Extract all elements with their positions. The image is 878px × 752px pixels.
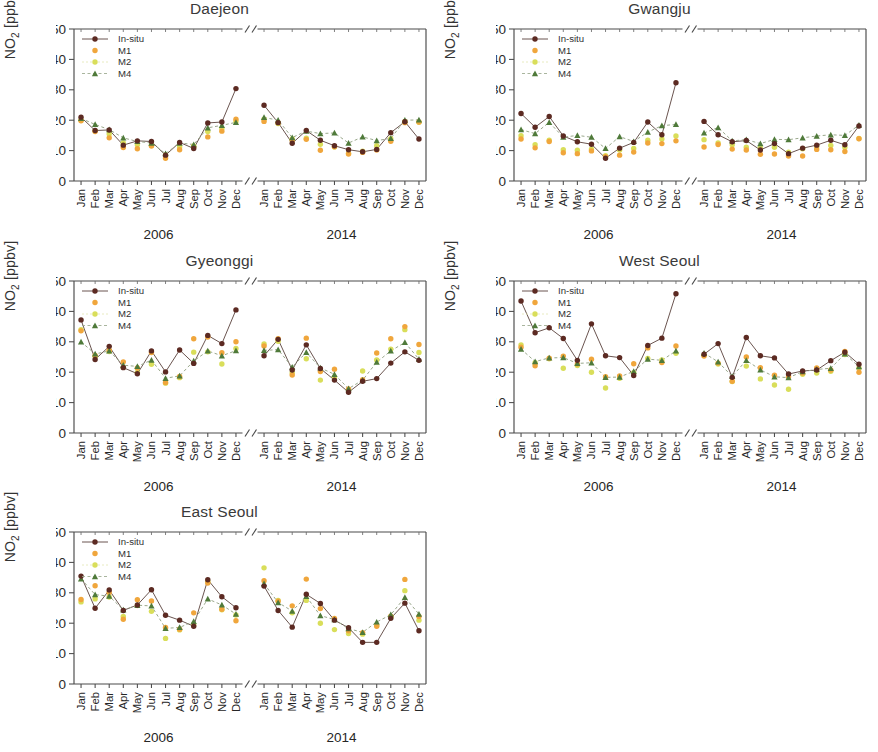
data-point-insitu-jan	[261, 353, 266, 358]
series-markers-m2	[78, 327, 238, 386]
data-point-insitu-may	[758, 147, 763, 152]
data-point-m2-jul	[786, 387, 791, 392]
data-point-insitu-sep	[191, 146, 196, 151]
x-tick-label-jul: Jul	[783, 441, 795, 455]
year-label-2006: 2006	[583, 479, 613, 494]
data-point-insitu-jun	[149, 587, 154, 592]
axis-break-top	[683, 25, 698, 34]
y-tick-label-0: 0	[58, 174, 66, 189]
legend-entry-m2: M2	[82, 56, 131, 67]
x-tick-label-nov: Nov	[656, 189, 668, 209]
data-point-m4-apr	[303, 349, 309, 355]
legend-label-m2: M2	[558, 308, 571, 319]
x-tick-label-nov: Nov	[216, 441, 228, 461]
x-tick-label-jul: Jul	[600, 189, 612, 203]
axis-break-top	[683, 277, 698, 286]
data-point-m2-jan	[701, 137, 706, 142]
series-markers-m4	[518, 346, 679, 380]
y-tick-label-40: 40	[496, 304, 506, 319]
legend-entry-insitu: In-situ	[82, 536, 144, 547]
legend-marker-insitu	[92, 539, 97, 544]
data-point-insitu-apr	[121, 608, 126, 613]
panel-daejeon: DaejeonNO2 [ppbv]01020304050JanFebMarApr…	[0, 0, 439, 251]
x-tick-label-jul: Jul	[160, 692, 172, 706]
series-markers-m2	[261, 117, 421, 156]
y-tick-label-50: 50	[56, 22, 66, 37]
data-point-m1-mar	[547, 139, 552, 144]
legend-label-insitu: In-situ	[118, 33, 144, 44]
x-tick-label-jan: Jan	[75, 189, 87, 207]
data-point-m1-aug	[177, 147, 182, 152]
axis-break-bottom	[243, 177, 258, 186]
data-point-m1-feb	[532, 145, 537, 150]
x-tick-label-dec: Dec	[853, 441, 865, 461]
x-tick-label-oct: Oct	[825, 188, 837, 206]
x-tick-label-jun: Jun	[768, 189, 780, 207]
legend-label-m1: M1	[558, 297, 571, 308]
data-point-m2-jul	[163, 636, 168, 641]
data-point-insitu-jul	[786, 151, 791, 156]
x-tick-label-apr: Apr	[557, 189, 569, 207]
year-label-2014: 2014	[326, 227, 357, 242]
legend-marker-m1	[92, 551, 97, 556]
y-tick-label-50: 50	[496, 274, 506, 289]
data-point-m1-nov	[402, 324, 407, 329]
legend-label-m4: M4	[118, 571, 132, 582]
x-tick-label-oct: Oct	[825, 440, 837, 458]
data-point-m4-may	[317, 613, 323, 619]
x-tick-label-aug: Aug	[357, 189, 369, 209]
data-point-insitu-feb	[92, 357, 97, 362]
data-point-m4-jan	[518, 127, 524, 133]
legend-marker-m2	[532, 311, 537, 316]
y-tick-label-20: 20	[56, 113, 66, 128]
x-tick-label-jun: Jun	[768, 441, 780, 459]
data-point-insitu-oct	[388, 130, 393, 135]
x-tick-label-oct: Oct	[202, 691, 214, 709]
data-point-insitu-jun	[772, 355, 777, 360]
legend-label-insitu: In-situ	[118, 285, 144, 296]
data-point-insitu-may	[575, 358, 580, 363]
figure-root: DaejeonNO2 [ppbv]01020304050JanFebMarApr…	[0, 0, 878, 752]
x-tick-label-dec: Dec	[670, 189, 682, 209]
series-markers-insitu	[261, 103, 421, 155]
year-label-2006: 2006	[143, 730, 173, 745]
x-tick-label-jan: Jan	[258, 692, 270, 710]
data-point-m1-sep	[191, 336, 196, 341]
data-point-insitu-jan	[701, 119, 706, 124]
data-point-insitu-oct	[205, 577, 210, 582]
x-tick-label-apr: Apr	[117, 441, 129, 459]
data-point-m4-jun	[331, 371, 337, 377]
series-line-insitu	[264, 586, 419, 642]
series-line-m4	[81, 118, 236, 153]
plot-area: 01020304050JanFebMarAprMayJunJulAugSepOc…	[496, 21, 868, 181]
x-tick-label-may: May	[314, 692, 326, 714]
data-point-m1-nov	[219, 128, 224, 133]
series-markers-m1	[518, 136, 678, 159]
x-tick-label-dec: Dec	[413, 189, 425, 209]
data-point-insitu-nov	[659, 335, 664, 340]
x-tick-label-feb: Feb	[529, 441, 541, 460]
legend-marker-m1	[92, 300, 97, 305]
panel-gwangju: GwangjuNO2 [ppbv]01020304050JanFebMarApr…	[440, 0, 878, 251]
data-point-m1-oct	[388, 336, 393, 341]
data-point-m1-nov	[842, 149, 847, 154]
data-point-insitu-feb	[92, 606, 97, 611]
legend-entry-m4: M4	[82, 68, 132, 79]
data-point-insitu-oct	[205, 120, 210, 125]
x-tick-label-jul: Jul	[160, 441, 172, 455]
plot-svg: 01020304050JanFebMarAprMayJunJulAugSepOc…	[56, 273, 428, 495]
legend-label-m1: M1	[558, 45, 571, 56]
data-point-insitu-apr	[121, 365, 126, 370]
data-point-insitu-oct	[388, 616, 393, 621]
series-markers-m2	[518, 133, 678, 158]
data-point-m1-aug	[617, 152, 622, 157]
y-tick-label-10: 10	[56, 395, 66, 410]
x-tick-label-nov: Nov	[839, 441, 851, 461]
legend-marker-m4	[532, 70, 538, 76]
x-tick-label-oct: Oct	[385, 691, 397, 709]
y-tick-label-40: 40	[56, 52, 66, 67]
x-tick-label-mar: Mar	[286, 692, 298, 712]
x-tick-label-nov: Nov	[656, 441, 668, 461]
series-line-insitu	[264, 339, 419, 392]
data-point-m1-may	[575, 151, 580, 156]
